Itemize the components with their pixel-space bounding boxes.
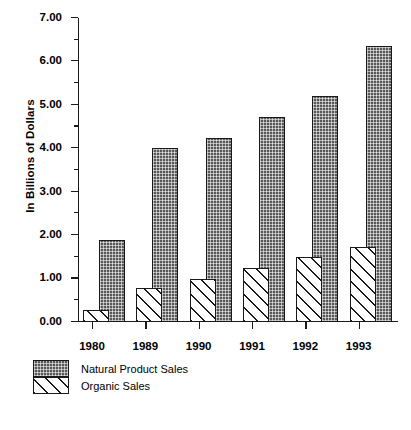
plot-area: 0.001.002.003.004.005.006.007.00 1980198… [78, 18, 398, 322]
legend-swatch-natural-icon [33, 360, 69, 377]
y-tick-major: 3.00 [71, 191, 78, 192]
y-tick-minor [74, 256, 79, 257]
bar-organic-1991 [243, 268, 269, 322]
y-tick-label: 4.00 [40, 141, 62, 153]
x-tick [305, 322, 306, 329]
legend-label-organic: Organic Sales [81, 380, 150, 392]
x-tick-label: 1989 [133, 340, 159, 352]
bar-organic-1993 [350, 247, 376, 322]
chart-legend: Natural Product Sales Organic Sales [33, 360, 373, 394]
x-tick [92, 322, 93, 329]
y-tick-minor [74, 299, 79, 300]
x-tick [145, 322, 146, 329]
y-tick-minor [74, 212, 79, 213]
y-tick-minor [74, 169, 79, 170]
y-tick-label: 1.00 [40, 271, 62, 283]
x-tick [359, 322, 360, 329]
x-tick-label: 1992 [293, 340, 319, 352]
x-tick-label: 1980 [79, 340, 105, 352]
y-tick-major: 2.00 [71, 234, 78, 235]
bar-chart: In Billions of Dollars 0.001.002.003.004… [0, 0, 411, 430]
y-tick-label: 0.00 [40, 315, 62, 327]
x-tick-label: 1991 [239, 340, 265, 352]
y-tick-major: 6.00 [71, 60, 78, 61]
x-tick [199, 322, 200, 329]
y-tick-minor [74, 82, 79, 83]
y-tick-label: 2.00 [40, 228, 62, 240]
bar-organic-1990 [190, 279, 216, 322]
y-tick-major: 1.00 [71, 277, 78, 278]
legend-swatch-organic-icon [33, 377, 69, 394]
y-tick-major: 4.00 [71, 147, 78, 148]
y-axis-title: In Billions of Dollars [24, 56, 36, 256]
legend-label-natural: Natural Product Sales [81, 363, 188, 375]
bar-organic-1980 [83, 310, 109, 322]
y-tick-label: 5.00 [40, 98, 62, 110]
y-tick-minor [74, 39, 79, 40]
y-tick-label: 3.00 [40, 185, 62, 197]
x-tick-label: 1993 [346, 340, 372, 352]
x-tick [252, 322, 253, 329]
bar-organic-1992 [296, 257, 322, 322]
y-tick-major: 5.00 [71, 104, 78, 105]
y-tick-major: 0.00 [71, 321, 78, 322]
legend-item-natural-product-sales: Natural Product Sales [33, 360, 373, 377]
y-tick-label: 6.00 [40, 54, 62, 66]
y-tick-major: 7.00 [71, 17, 78, 18]
bar-organic-1989 [136, 288, 162, 322]
y-tick-label: 7.00 [40, 11, 62, 23]
x-tick-label: 1990 [186, 340, 212, 352]
y-tick-minor [74, 125, 79, 126]
y-axis-line [78, 18, 79, 322]
legend-item-organic-sales: Organic Sales [33, 377, 373, 394]
